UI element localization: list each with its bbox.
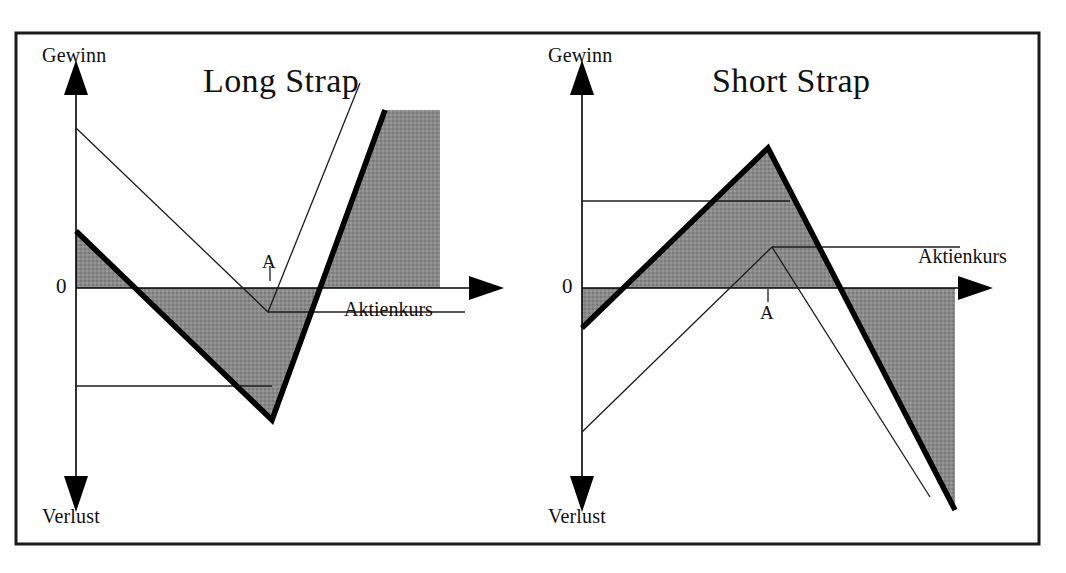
long-strap-strike-label: A (262, 251, 276, 273)
payoff-diagram-svg (0, 0, 1066, 573)
short-strap-x-axis-label: Aktienkurs (918, 245, 1007, 268)
short-strap-title: Short Strap (712, 62, 870, 100)
short-strap-y-axis-negative-label: Verlust (548, 505, 606, 528)
short-strap-origin-label: 0 (562, 274, 573, 299)
long-strap-shaded-area (76, 110, 440, 420)
strap-payoff-figure: Gewinn Verlust 0 Long Strap A Aktienkurs… (0, 0, 1066, 573)
long-strap-title: Long Strap (203, 62, 359, 100)
long-strap-y-axis-negative-label: Verlust (42, 505, 100, 528)
short-strap-y-axis-label: Gewinn (548, 44, 613, 67)
long-strap-x-axis-label: Aktienkurs (344, 298, 433, 321)
short-strap-x-axis-arrow-icon (958, 276, 993, 300)
long-strap-origin-label: 0 (56, 274, 67, 299)
long-strap-chart (64, 60, 504, 512)
short-strap-shaded-area (582, 148, 955, 510)
short-strap-strike-label: A (760, 302, 774, 324)
long-strap-y-axis-label: Gewinn (42, 44, 107, 67)
short-strap-chart (570, 60, 993, 512)
long-strap-x-axis-arrow-icon (469, 276, 504, 300)
